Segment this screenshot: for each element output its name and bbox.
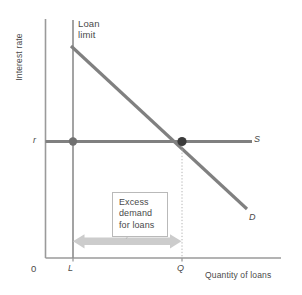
x-tick-label-l: L: [68, 263, 73, 274]
loan-limit-label-line1: Loan: [78, 18, 100, 29]
loanable-funds-diagram: Interest rate Quantity of loans Loanlimi…: [0, 0, 302, 295]
loan-limit-label: Loanlimit: [78, 18, 100, 40]
loan-limit-label-line2: limit: [78, 29, 95, 40]
chart-canvas: [0, 0, 302, 295]
origin-label: 0: [31, 263, 36, 274]
excess-demand-line1: Excess: [119, 197, 149, 207]
demand-curve-label: D: [249, 212, 256, 223]
x-axis-label: Quantity of loans: [205, 270, 271, 280]
supply-curve-label: S: [254, 134, 260, 145]
excess-demand-line2: demand: [119, 208, 152, 218]
loan-limit-point-marker: [69, 137, 77, 145]
excess-demand-callout-text: Excessdemandfor loans: [119, 197, 162, 231]
demand-curve: [71, 46, 247, 209]
equilibrium-point-marker: [177, 137, 186, 146]
excess-demand-line3: for loans: [119, 220, 154, 230]
excess-demand-callout: Excessdemandfor loans: [112, 192, 168, 237]
y-tick-label-r: r: [33, 135, 36, 146]
x-tick-label-q: Q: [177, 263, 184, 274]
y-axis-label: Interest rate: [14, 14, 24, 100]
